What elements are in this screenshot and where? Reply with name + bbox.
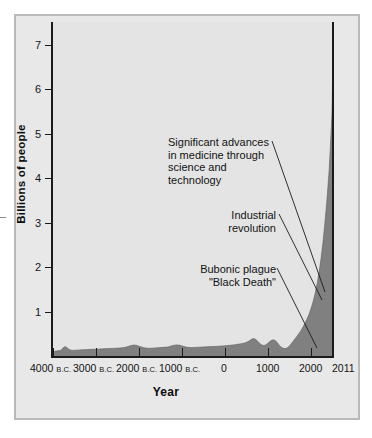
- margin-tick-artifact: [0, 217, 6, 218]
- population-growth-chart-figure: 7 6 5 4 3 2 1 4000 B.C. 3000 B.C. 2000 B…: [0, 0, 372, 438]
- x-tick-label-2000bc: 2000 B.C.: [116, 362, 157, 374]
- y-axis-title: Billions of people: [15, 109, 27, 239]
- x-tick-1000bc: [182, 348, 183, 358]
- x-axis-title: Year: [0, 385, 372, 399]
- plot-right-edge-line: [332, 22, 334, 358]
- x-tick-4000bc: [53, 348, 54, 358]
- y-tick-7: [45, 45, 52, 46]
- x-tick-label-1000bc: 1000 B.C.: [159, 362, 200, 374]
- x-tick-2000: [311, 348, 312, 358]
- y-tick-1: [45, 312, 52, 313]
- y-tick-label-1: 1: [35, 307, 41, 317]
- y-axis-line: [51, 22, 53, 358]
- annotation-industrial: Industrial revolution: [168, 209, 276, 234]
- y-tick-label-7: 7: [35, 40, 41, 50]
- y-tick-label-6: 6: [35, 84, 41, 94]
- x-tick-label-3000bc: 3000 B.C.: [73, 362, 114, 374]
- population-area-series: [52, 22, 333, 357]
- y-tick-4: [45, 178, 52, 179]
- x-tick-label-1000: 1000: [256, 362, 279, 374]
- annotation-medicine: Significant advances in medicine through…: [168, 136, 269, 186]
- y-tick-label-3: 3: [35, 218, 41, 228]
- y-tick-label-2: 2: [35, 262, 41, 272]
- y-tick-2: [45, 267, 52, 268]
- x-tick-label-0: 0: [221, 362, 227, 374]
- annotation-plague: Bubonic plague "Black Death": [155, 263, 276, 288]
- x-tick-label-2000: 2000: [299, 362, 322, 374]
- x-tick-2011: [333, 348, 334, 358]
- x-tick-label-4000bc: 4000 B.C.: [30, 362, 71, 374]
- x-tick-0: [225, 348, 226, 358]
- x-tick-label-2011: 2011: [332, 362, 355, 374]
- x-tick-3000bc: [96, 348, 97, 358]
- population-area-path: [52, 39, 333, 357]
- y-tick-6: [45, 89, 52, 90]
- y-tick-5: [45, 134, 52, 135]
- x-tick-2000bc: [139, 348, 140, 358]
- y-tick-label-5: 5: [35, 129, 41, 139]
- y-tick-3: [45, 223, 52, 224]
- x-tick-1000: [268, 348, 269, 358]
- x-axis-line: [51, 356, 334, 358]
- y-tick-label-4: 4: [35, 173, 41, 183]
